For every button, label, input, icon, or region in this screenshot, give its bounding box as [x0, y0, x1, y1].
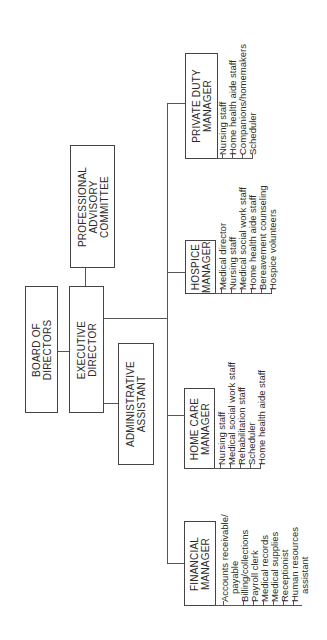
- connector-executive-admin: [103, 403, 118, 404]
- list-item: assistant: [300, 557, 310, 602]
- professional-advisory-committee-box: PROFESSIONAL ADVISORY COMMITTEE: [70, 145, 115, 268]
- professional-advisory-committee-label: PROFESSIONAL ADVISORY COMMITTEE: [76, 166, 109, 246]
- administrative-assistant-box: ADMINISTRATIVE ASSISTANT: [118, 343, 154, 465]
- home-care-manager-label: HOME CARE MANAGER: [189, 397, 211, 459]
- executive-director-label: EXECUTIVE DIRECTOR: [76, 320, 98, 378]
- board-of-directors-label: BOARD OF DIRECTORS: [31, 319, 53, 380]
- list-item: Home health aide staff: [257, 370, 267, 465]
- home-care-list-baseline: [214, 468, 261, 469]
- connector-spine-privateduty: [167, 103, 185, 104]
- connector-spine-homecare: [167, 415, 184, 416]
- private-duty-list-baseline: [217, 158, 253, 159]
- private-duty-manager-label: PRIVATE DUTY MANAGER: [191, 69, 213, 143]
- hospice-manager-box: HOSPICE MANAGER: [185, 240, 216, 294]
- connector-spine-financial: [167, 563, 184, 564]
- board-of-directors-box: BOARD OF DIRECTORS: [25, 286, 58, 413]
- hospice-list-baseline: [215, 293, 272, 294]
- financial-manager-label: FINANCIAL MANAGER: [189, 536, 211, 590]
- list-item: Scheduler: [248, 112, 258, 155]
- connector-spine-hospice: [167, 272, 185, 273]
- list-item: Hospice volunteers: [268, 209, 278, 290]
- hospice-manager-label: HOSPICE MANAGER: [190, 241, 212, 293]
- financial-list-baseline: [215, 605, 302, 606]
- connector-board-executive: [57, 351, 69, 352]
- private-duty-manager-box: PRIVATE DUTY MANAGER: [185, 53, 218, 159]
- connector-executive-advisory: [85, 267, 86, 286]
- administrative-assistant-label: ADMINISTRATIVE ASSISTANT: [125, 361, 147, 447]
- financial-manager-box: FINANCIAL MANAGER: [184, 521, 216, 606]
- connector-spine: [167, 103, 168, 564]
- connector-executive-spine: [103, 318, 167, 319]
- executive-director-box: EXECUTIVE DIRECTOR: [69, 286, 104, 413]
- home-care-manager-box: HOME CARE MANAGER: [184, 388, 215, 469]
